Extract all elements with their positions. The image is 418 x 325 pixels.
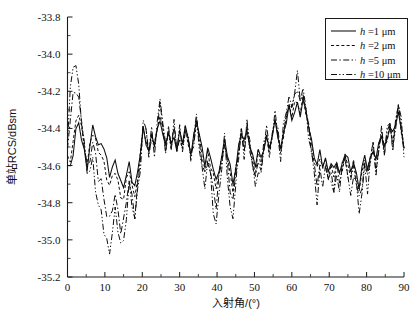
chart-figure: -35.2-35.0-34.8-34.6-34.4-34.2-34.0-33.8… <box>0 0 418 325</box>
legend-label-2: h =2 μm <box>360 40 395 51</box>
y-tick-label: -34.8 <box>38 197 61 209</box>
x-tick-label: 90 <box>399 281 411 293</box>
chart-legend: h =1 μmh =2 μmh =5 μmh =10 μm <box>326 19 408 81</box>
x-tick-label: 10 <box>99 281 111 293</box>
y-tick-label: -35.0 <box>38 234 61 246</box>
x-axis-label: 入射角/(°) <box>212 296 260 309</box>
x-tick-label: 80 <box>361 281 373 293</box>
y-tick-label: -34.6 <box>38 160 61 172</box>
x-tick-label: 70 <box>324 281 336 293</box>
y-tick-label: -34.0 <box>38 48 61 60</box>
rcs-line-chart: -35.2-35.0-34.8-34.6-34.4-34.2-34.0-33.8… <box>0 0 418 325</box>
x-tick-label: 30 <box>174 281 186 293</box>
y-tick-label: -34.4 <box>38 122 61 134</box>
legend-label-1: h =1 μm <box>360 26 395 37</box>
x-tick-label: 60 <box>286 281 298 293</box>
y-tick-label: -33.8 <box>38 11 61 23</box>
y-axis-label: 单站RCS/dBsm <box>5 109 18 185</box>
x-tick-label: 50 <box>249 281 261 293</box>
legend-label-4: h =10 μm <box>360 69 401 80</box>
x-tick-label: 0 <box>65 281 71 293</box>
x-tick-label: 40 <box>212 281 224 293</box>
x-tick-label: 20 <box>137 281 149 293</box>
y-tick-label: -34.2 <box>38 85 61 97</box>
legend-label-3: h =5 μm <box>360 55 395 66</box>
y-tick-label: -35.2 <box>38 271 61 283</box>
